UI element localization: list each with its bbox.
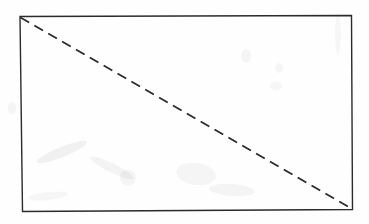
paper-smudge (241, 49, 251, 63)
paper-smudge (275, 63, 283, 73)
paper-smudge (270, 82, 282, 91)
paper-smudge (120, 170, 136, 186)
figure-canvas (0, 0, 369, 224)
paper-smudge (8, 102, 17, 114)
paper-smudge (335, 14, 341, 54)
geometry-figure (0, 0, 369, 224)
paper-background (0, 0, 369, 224)
